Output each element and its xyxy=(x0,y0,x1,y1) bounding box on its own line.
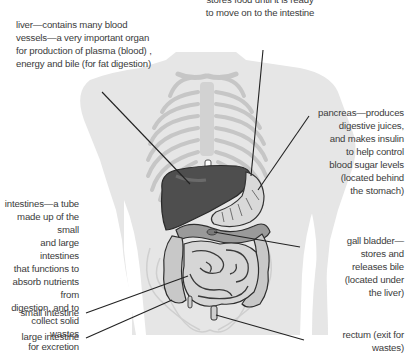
clavicles xyxy=(178,74,236,78)
label-small-intestine: small intestine xyxy=(0,306,79,319)
label-liver: liver—contains many blood vessels—a very… xyxy=(16,18,216,70)
label-pancreas: pancreas—produces digestive juices, and … xyxy=(294,106,404,197)
appendix xyxy=(188,296,192,308)
digestive-system-diagram: stores food until it is ready to move on… xyxy=(0,0,407,354)
rectum xyxy=(211,306,217,320)
label-gall-bladder: gall bladder— stores and releases bile (… xyxy=(304,234,404,299)
label-stomach: stores food until it is ready to move on… xyxy=(180,0,340,19)
label-rectum: rectum (exit for wastes) xyxy=(304,328,404,354)
sternum xyxy=(200,82,214,156)
label-large-intestine: large intestine xyxy=(0,330,79,343)
